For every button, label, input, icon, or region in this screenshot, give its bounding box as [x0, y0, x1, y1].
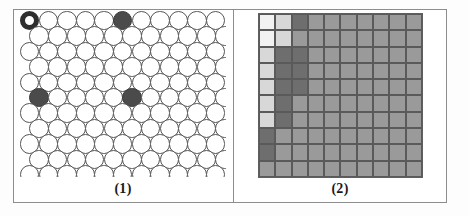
- grid-cell: [340, 144, 356, 160]
- grid-cell: [357, 161, 373, 177]
- grid-cell: [340, 95, 356, 111]
- grid-cell: [292, 63, 308, 79]
- lattice-row: [20, 73, 226, 88]
- panel-1-circle-lattice: (1): [13, 9, 233, 203]
- lattice-site-open: [187, 165, 206, 177]
- grid-cell: [259, 112, 275, 128]
- circle-lattice-grid: [20, 11, 226, 177]
- lattice-site-open: [169, 165, 188, 177]
- grid-cell: [357, 63, 373, 79]
- grid-cell: [373, 128, 389, 144]
- lattice-site-open: [113, 165, 132, 177]
- grid-cell: [357, 30, 373, 46]
- grid-cell: [389, 14, 405, 30]
- grid-cell: [292, 112, 308, 128]
- grid-cell: [357, 128, 373, 144]
- shaded-grid: [258, 13, 423, 178]
- grid-cell: [373, 14, 389, 30]
- grid-cell: [357, 79, 373, 95]
- grid-cell: [259, 47, 275, 63]
- lattice-row: [20, 103, 226, 118]
- grid-cell: [259, 63, 275, 79]
- grid-cell: [292, 144, 308, 160]
- lattice-row: [20, 119, 226, 134]
- grid-cell: [259, 95, 275, 111]
- grid-cell: [406, 63, 422, 79]
- grid-cell: [406, 47, 422, 63]
- grid-cell: [373, 144, 389, 160]
- grid-cell: [275, 161, 291, 177]
- lattice-row: [20, 26, 226, 41]
- grid-cell: [308, 95, 324, 111]
- grid-cell: [340, 161, 356, 177]
- grid-cell: [389, 79, 405, 95]
- grid-cell: [389, 95, 405, 111]
- grid-cell: [340, 14, 356, 30]
- grid-cell: [324, 112, 340, 128]
- grid-cell: [324, 95, 340, 111]
- grid-cell: [340, 47, 356, 63]
- grid-cell: [389, 47, 405, 63]
- grid-cell: [406, 79, 422, 95]
- grid-cell: [308, 144, 324, 160]
- grid-cell: [373, 95, 389, 111]
- grid-cell: [308, 161, 324, 177]
- grid-cell: [406, 144, 422, 160]
- lattice-row: [20, 42, 226, 57]
- grid-cell: [389, 63, 405, 79]
- grid-cell: [275, 95, 291, 111]
- grid-cell: [324, 161, 340, 177]
- lattice-row: [20, 11, 226, 26]
- grid-cell: [406, 30, 422, 46]
- grid-cell: [292, 47, 308, 63]
- grid-cell: [275, 144, 291, 160]
- lattice-site-open: [76, 165, 95, 177]
- grid-cell: [340, 30, 356, 46]
- grid-cell: [389, 161, 405, 177]
- grid-cell: [373, 112, 389, 128]
- grid-cell: [357, 144, 373, 160]
- grid-cell: [259, 30, 275, 46]
- grid-cell: [324, 144, 340, 160]
- lattice-row: [20, 150, 226, 165]
- grid-cell: [275, 63, 291, 79]
- panel-1-caption: (1): [13, 181, 233, 197]
- grid-cell: [275, 14, 291, 30]
- grid-cell: [292, 128, 308, 144]
- grid-cell: [324, 14, 340, 30]
- grid-cell: [259, 79, 275, 95]
- lattice-row: [20, 134, 226, 149]
- grid-cell: [389, 144, 405, 160]
- grid-cell: [340, 128, 356, 144]
- lattice-row: [20, 165, 226, 177]
- grid-cell: [357, 14, 373, 30]
- grid-cell: [406, 95, 422, 111]
- grid-cell: [292, 30, 308, 46]
- grid-cell: [324, 63, 340, 79]
- grid-cell: [324, 128, 340, 144]
- grid-cell: [308, 14, 324, 30]
- grid-cell: [259, 128, 275, 144]
- grid-cell: [292, 161, 308, 177]
- lattice-site-open: [39, 165, 58, 177]
- grid-cell: [259, 14, 275, 30]
- grid-cell: [275, 128, 291, 144]
- grid-cell: [373, 161, 389, 177]
- grid-cell: [308, 47, 324, 63]
- grid-cell: [406, 161, 422, 177]
- panel-2-caption: (2): [233, 181, 447, 197]
- grid-cell: [389, 128, 405, 144]
- grid-cell: [357, 95, 373, 111]
- grid-cell: [406, 14, 422, 30]
- grid-cell: [308, 79, 324, 95]
- grid-cell: [373, 63, 389, 79]
- lattice-site-open: [94, 165, 113, 177]
- grid-cell: [389, 30, 405, 46]
- grid-cell: [324, 30, 340, 46]
- grid-cell: [324, 47, 340, 63]
- lattice-site-open: [206, 165, 225, 177]
- grid-cell: [340, 63, 356, 79]
- grid-cell: [275, 47, 291, 63]
- grid-cell: [373, 30, 389, 46]
- lattice-site-open: [20, 165, 39, 177]
